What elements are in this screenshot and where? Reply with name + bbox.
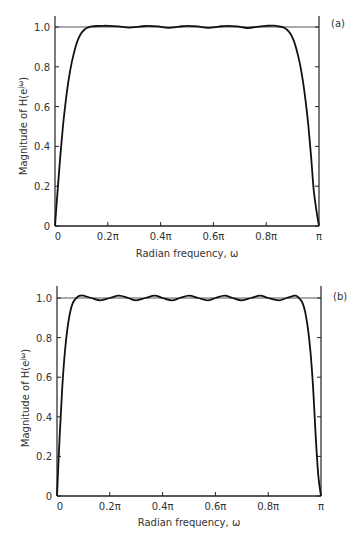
chart-a-svg: (a) 00.20.40.60.81.0 00.2π0.4π0.6π0.8ππ … (0, 0, 361, 270)
y-tick-label: 0.2 (36, 451, 52, 462)
x-tick-labels: 00.2π0.4π0.6π0.8ππ (55, 222, 322, 242)
y-tick-labels: 00.20.40.60.81.0 (36, 293, 321, 502)
x-tick-label: 0.2π (97, 231, 119, 242)
panel-tag: (b) (333, 291, 347, 302)
plot-area (55, 16, 319, 226)
y-tick-label: 0.6 (34, 102, 50, 113)
y-tick-label: 1.0 (36, 293, 52, 304)
x-tick-label: 0.4π (152, 501, 174, 512)
y-tick-label: 0.8 (36, 333, 52, 344)
y-tick-label: 0.4 (36, 412, 52, 423)
x-tick-label: π (318, 501, 324, 512)
x-tick-label: 0.6π (202, 231, 224, 242)
x-tick-labels: 00.2π0.4π0.6π0.8ππ (57, 492, 324, 512)
x-tick-label: 0 (55, 231, 61, 242)
chart-b-svg: (b) 00.20.40.60.81.0 00.2π0.4π0.6π0.8ππ … (0, 270, 361, 541)
x-tick-label: 0.4π (150, 231, 172, 242)
y-tick-label: 0.8 (34, 62, 50, 73)
x-tick-label: 0 (57, 501, 63, 512)
y-tick-label: 0 (44, 221, 50, 232)
x-tick-label: 0.6π (204, 501, 226, 512)
y-tick-label: 0 (46, 491, 52, 502)
panel-tag: (a) (331, 18, 345, 29)
x-tick-label: π (316, 231, 322, 242)
y-tick-label: 0.2 (34, 181, 50, 192)
y-tick-label: 0.6 (36, 372, 52, 383)
x-tick-label: 0.8π (255, 231, 277, 242)
x-tick-label: 0.2π (99, 501, 121, 512)
y-tick-labels: 00.20.40.60.81.0 (34, 22, 319, 232)
plot-area (57, 286, 321, 496)
y-tick-label: 1.0 (34, 22, 50, 33)
chart-panel-a: (a) 00.20.40.60.81.0 00.2π0.4π0.6π0.8ππ … (0, 0, 361, 270)
magnitude-response-curve (55, 26, 319, 226)
y-axis-title: Magnitude of H(ejω) (19, 349, 31, 447)
x-axis-title: Radian frequency, ω (138, 517, 241, 528)
chart-panel-b: (b) 00.20.40.60.81.0 00.2π0.4π0.6π0.8ππ … (0, 270, 361, 540)
magnitude-response-curve (57, 295, 321, 496)
x-axis-title: Radian frequency, ω (136, 248, 239, 259)
y-tick-label: 0.4 (34, 141, 50, 152)
y-axis-title: Magnitude of H(ejω) (17, 77, 29, 175)
x-tick-label: 0.8π (257, 501, 279, 512)
